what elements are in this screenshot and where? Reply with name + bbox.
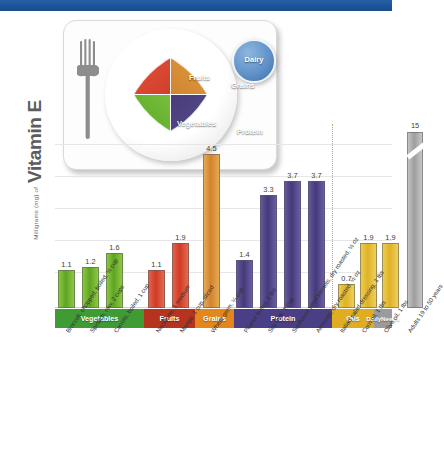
- bar-value: 4.5: [206, 144, 216, 153]
- axis-break-slash: [406, 140, 430, 160]
- bar-value: 1.9: [385, 233, 395, 242]
- plate-label-dairy: Dairy: [234, 55, 274, 64]
- bar-peanut-butter[interactable]: 1.4: [236, 260, 253, 308]
- fork-icon: [77, 37, 99, 141]
- plate-label-protein: Protein: [237, 127, 263, 136]
- plate-segment-grains: [171, 44, 222, 94]
- bar-value: 1.9: [363, 233, 373, 242]
- plate-label-vegetables: Vegetables: [177, 119, 216, 128]
- plate-label-fruits: Fruits: [189, 73, 210, 82]
- bar-olive-oil[interactable]: 1.9: [382, 243, 399, 308]
- bar-value: 3.7: [287, 171, 297, 180]
- bar-broccoli[interactable]: 1.1: [58, 270, 75, 308]
- bar-value: 1.6: [109, 243, 119, 252]
- bar-series: 1.1 1.2 1.6 1.1 1.9 4.5 1.4 3.3 3.7 3.7 …: [55, 140, 392, 308]
- y-axis-title: Milligrams (mg) of Vitamin E: [15, 75, 55, 265]
- top-blue-band: [0, 0, 392, 11]
- bar-value: 1.1: [151, 260, 161, 269]
- y-axis-main-title: Vitamin E: [24, 100, 46, 183]
- plate-segment-vegetables: [120, 95, 170, 145]
- bar-value: 15: [411, 121, 419, 130]
- x-axis-labels: Broccoli, chopped, boiled, ½ cup Spinach…: [0, 330, 392, 463]
- bar-value: 1.9: [175, 233, 185, 242]
- bar-value: 3.3: [263, 185, 273, 194]
- plate-label-grains: Grains: [231, 81, 255, 90]
- bar-value: 1.1: [61, 260, 71, 269]
- plate-segment-fruits: [120, 44, 170, 94]
- bar-sunflower-seeds[interactable]: 3.7: [284, 181, 301, 308]
- y-axis-unit-text: Milligrams (mg) of: [32, 187, 39, 240]
- chart-plot-area: 1.1 1.2 1.6 1.1 1.9 4.5 1.4 3.3 3.7 3.7 …: [55, 140, 392, 308]
- bar-daily-needs[interactable]: 15: [407, 132, 423, 308]
- bar-value: 1.2: [85, 257, 95, 266]
- bar-nectarine[interactable]: 1.1: [148, 270, 165, 308]
- plate-segment-dairy: Dairy: [232, 39, 276, 83]
- bar-value: 3.7: [311, 171, 321, 180]
- bar-value: 1.4: [239, 250, 249, 259]
